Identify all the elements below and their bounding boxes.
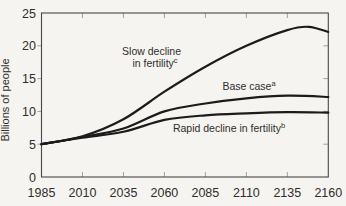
population-projection-chart: 1985201020352060208521102135216005101520…: [0, 0, 346, 206]
label-rapid-decline-in-fertility: Rapid decline in fertilityb: [173, 121, 285, 134]
label-slow-decline-in-fertility: Slow decline in fertilityc: [122, 45, 184, 69]
label-base-superscript: a: [271, 79, 276, 88]
y-tick-label: 0: [29, 171, 36, 185]
label-base-case: Base casea: [222, 79, 276, 92]
x-tick-label: 2135: [273, 186, 301, 200]
x-tick-label: 2160: [314, 186, 342, 200]
x-tick-label: 2085: [191, 186, 219, 200]
y-tick-label: 25: [22, 7, 36, 21]
y-tick-label: 5: [29, 138, 36, 152]
x-tick-label: 2060: [151, 186, 179, 200]
tick-labels: 1985201020352060208521102135216005101520…: [22, 7, 342, 201]
label-slow-line2: in fertility: [132, 57, 174, 69]
label-base-text: Base case: [222, 80, 271, 92]
label-slow-superscript: c: [174, 56, 178, 65]
y-tick-label: 15: [22, 72, 36, 86]
label-rapid-text: Rapid decline in fertility: [173, 122, 282, 134]
x-tick-label: 2110: [233, 186, 260, 200]
x-tick-label: 2035: [110, 186, 138, 200]
label-rapid-superscript: b: [281, 121, 285, 130]
y-tick-label: 20: [22, 39, 36, 53]
y-axis-title: Billions of people: [0, 58, 11, 141]
x-tick-label: 2010: [69, 186, 97, 200]
chart-canvas: 1985201020352060208521102135216005101520…: [0, 0, 346, 206]
x-tick-label: 1985: [28, 186, 56, 200]
y-tick-label: 10: [22, 105, 36, 119]
label-slow-line1: Slow decline: [122, 45, 181, 57]
